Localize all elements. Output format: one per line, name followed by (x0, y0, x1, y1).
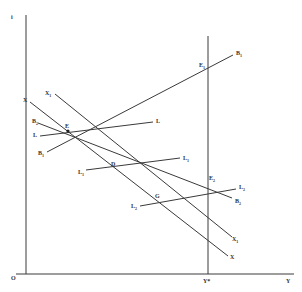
point-E1-label: E1 (199, 62, 205, 70)
label-X1-start: X1 (45, 90, 51, 98)
label-B1-end: B1 (236, 50, 242, 58)
label-L-start: L (33, 132, 37, 138)
label-L-end: L (156, 118, 160, 124)
label-L2-end: L2 (239, 184, 245, 192)
point-G-label: G (155, 193, 160, 199)
point-E2-label: E2 (209, 175, 215, 183)
label-X-end: X (230, 254, 234, 260)
label-B2-start: B2 (32, 118, 38, 126)
point-E-label: E (65, 123, 69, 129)
label-X-start: X (23, 97, 27, 103)
curve-L (40, 122, 153, 136)
point-D-label: D (111, 161, 115, 167)
y-axis-label: i (11, 14, 13, 20)
curve-X1 (55, 94, 232, 237)
economics-diagram (0, 0, 302, 292)
label-L2-start: L2 (131, 203, 137, 211)
origin-label: O (11, 275, 16, 281)
label-B1-start: B1 (38, 150, 44, 158)
label-L1-start: L1 (78, 169, 84, 177)
x-axis-label: Y (286, 278, 290, 284)
label-L1-end: L1 (183, 155, 189, 163)
label-X1-end: X1 (232, 236, 238, 244)
label-B2-end: B2 (235, 198, 241, 206)
full-employment-label: Y* (203, 278, 210, 284)
point-E-marker (66, 129, 69, 132)
curve-B2 (38, 123, 232, 198)
